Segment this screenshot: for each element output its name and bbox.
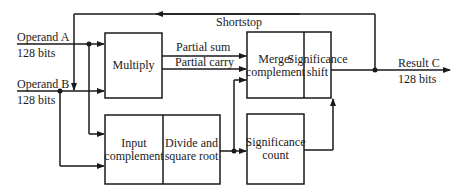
operand-a-width: 128 bits: [17, 47, 55, 59]
result-label: Result C: [398, 57, 440, 69]
significance-shift-block: Significance shift: [304, 52, 331, 80]
partial-sum-label: Partial sum: [176, 41, 230, 53]
operand-a-label: Operand A: [17, 31, 69, 43]
multiply-block: Multiply: [105, 33, 162, 98]
operand-b-width: 128 bits: [17, 94, 55, 106]
input-complement-block: Input complement: [105, 136, 163, 164]
significance-count-block: Significance count: [247, 135, 304, 163]
shortstop-label: Shortstop: [216, 16, 262, 28]
result-width: 128 bits: [398, 73, 436, 85]
divide-sqrt-block: Divide and square root: [163, 136, 220, 164]
partial-carry-label: Partial carry: [175, 56, 234, 68]
operand-b-label: Operand B: [17, 78, 69, 90]
